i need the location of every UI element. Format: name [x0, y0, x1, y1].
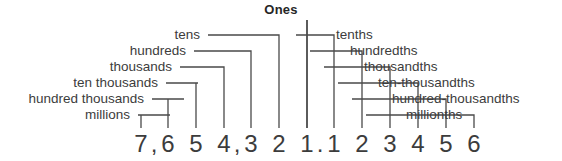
place-label-tenths: tenths — [336, 28, 373, 42]
place-label-millions: millions — [0, 108, 130, 122]
hundred-thousandths-digit: 5 — [436, 129, 456, 159]
leader-line-tens — [208, 35, 279, 128]
leader-line-thousands — [180, 67, 224, 128]
tenths-digit: 1 — [324, 129, 344, 159]
leader-line-ten-thousands — [166, 83, 198, 128]
place-label-ten-thousandths: ten-thousandths — [378, 76, 475, 90]
place-label-thousandths: thousandths — [364, 60, 438, 74]
leader-line-hundreds — [194, 51, 251, 128]
ten-thousandths-digit: 4 — [408, 129, 428, 159]
hundreds-digit: 3 — [241, 129, 261, 159]
ten-thousands-digit: 5 — [186, 129, 206, 159]
leader-line-millions — [138, 115, 170, 128]
place-label-millionths: millionths — [406, 108, 462, 122]
place-label-ten-thousands: ten thousands — [0, 76, 158, 90]
place-value-diagram: Ones tenshundredsthousandsten thousandsh… — [0, 0, 562, 161]
leader-line-hundredths — [310, 51, 362, 128]
hundredths-digit: 2 — [352, 129, 372, 159]
millionths-digit: 6 — [464, 129, 484, 159]
place-label-hundred-thousands: hundred thousands — [0, 92, 144, 106]
numeral-row: 7,654,321.123456 — [0, 129, 562, 161]
thousandths-digit: 3 — [380, 129, 400, 159]
place-label-hundredths: hundredths — [350, 44, 418, 58]
leader-line-hundred-thousands — [152, 99, 184, 128]
tens-digit: 2 — [269, 129, 289, 159]
place-label-hundred-thousandths: hundred-thousandths — [392, 92, 520, 106]
hundred-thousands-digit: 6 — [158, 129, 178, 159]
place-label-tens: tens — [0, 28, 200, 42]
place-label-thousands: thousands — [0, 60, 172, 74]
place-label-hundreds: hundreds — [0, 44, 186, 58]
leader-line-tenths — [296, 35, 334, 128]
